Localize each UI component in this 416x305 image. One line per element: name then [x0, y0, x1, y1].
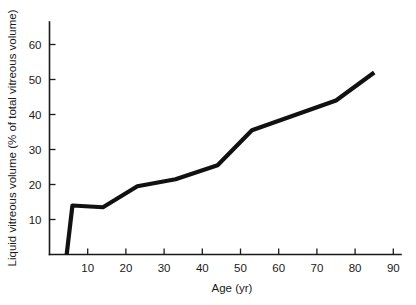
x-tick-label: 40	[196, 262, 209, 274]
x-tick-label: 80	[349, 262, 362, 274]
x-tick-label: 60	[272, 262, 285, 274]
x-tick-label: 90	[387, 262, 400, 274]
x-tick-label: 70	[311, 262, 324, 274]
data-series-line	[67, 73, 375, 255]
x-axis-ticks	[88, 249, 394, 255]
line-chart: 102030405060 102030405060708090 Age (yr)…	[0, 0, 416, 305]
x-tick-label: 30	[158, 262, 171, 274]
y-tick-label: 10	[29, 214, 42, 226]
chart-figure: 102030405060 102030405060708090 Age (yr)…	[0, 0, 416, 305]
y-axis-tick-labels: 102030405060	[29, 39, 42, 226]
y-tick-label: 50	[29, 74, 42, 86]
y-tick-label: 60	[29, 39, 42, 51]
y-tick-label: 30	[29, 144, 42, 156]
y-tick-label: 20	[29, 179, 42, 191]
y-tick-label: 40	[29, 109, 42, 121]
x-tick-label: 10	[81, 262, 94, 274]
x-tick-label: 50	[234, 262, 247, 274]
x-axis-title: Age (yr)	[212, 282, 253, 294]
y-axis-title: Liquid vitreous volume (% of total vitre…	[6, 9, 18, 266]
x-tick-label: 20	[120, 262, 133, 274]
x-axis-tick-labels: 102030405060708090	[81, 262, 399, 274]
y-axis-ticks	[50, 45, 56, 220]
